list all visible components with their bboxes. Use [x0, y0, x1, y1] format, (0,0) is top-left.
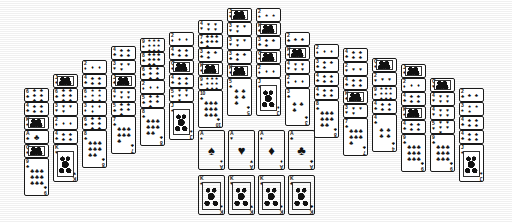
playing-card[interactable]: 2♦♦♦ [314, 44, 339, 58]
playing-card[interactable]: A♣♣ [24, 130, 49, 144]
playing-card[interactable]: K♠ [285, 46, 310, 60]
playing-card[interactable]: 5♣♣♣♣♣♣ [140, 94, 165, 108]
playing-card[interactable]: 5♣♣♣♣♣♣ [111, 102, 136, 116]
playing-card[interactable]: 2♠♠♠ [256, 8, 281, 22]
playing-card[interactable]: 4♥♥♥♥♥ [198, 20, 223, 34]
playing-card[interactable]: 3♣♣♣♣ [198, 48, 223, 62]
playing-card[interactable]: K♥K♥ [228, 175, 255, 215]
playing-card[interactable]: K♣ [343, 90, 368, 104]
playing-card[interactable]: 5♣♣♣♣♣♣5♣ [227, 78, 252, 116]
playing-card[interactable]: 2♣♣♣ [285, 32, 310, 46]
playing-card[interactable]: 3♥♥♥♥ [227, 22, 252, 36]
foundation-slot[interactable]: A♠♠A♠ [198, 130, 225, 170]
playing-card[interactable]: 8♣♣♣♣♣♣♣♣♣8♣ [82, 130, 107, 168]
playing-card[interactable]: A♥♥A♥ [228, 130, 255, 170]
playing-card[interactable]: J♠J♠ [169, 102, 194, 140]
playing-card[interactable]: 5♥♥♥♥♥♥ [430, 120, 455, 134]
playing-card[interactable]: 2♣♣♣ [459, 88, 484, 102]
playing-card[interactable]: 4♣♣♣♣♣ [401, 92, 426, 106]
playing-card[interactable]: 2♦♦♦ [256, 64, 281, 78]
playing-card[interactable]: 4♣♣♣♣♣ [459, 116, 484, 130]
playing-card[interactable]: J♣ [111, 74, 136, 88]
playing-card[interactable]: 3♥♥♥♥ [343, 104, 368, 118]
playing-card[interactable]: 4♣♣♣♣♣ [53, 130, 78, 144]
playing-card[interactable]: K♥K♥ [53, 144, 78, 182]
playing-card[interactable]: J♠J♠ [459, 144, 484, 182]
playing-card[interactable]: J♦ [401, 64, 426, 78]
playing-card[interactable]: 2♥♥♥ [343, 62, 368, 76]
playing-card[interactable]: 9♠♠♠♠♠♠♠♠♠♠ [372, 86, 397, 100]
playing-card[interactable]: K♦ [198, 62, 223, 76]
playing-card[interactable]: 10♣♣♣♣♣♣♣♣♣♣10♣ [198, 90, 223, 128]
playing-card[interactable]: K♣K♣ [288, 175, 315, 215]
playing-card[interactable]: 3♣♣♣♣ [227, 50, 252, 64]
playing-card[interactable]: 2♥♥♥ [372, 72, 397, 86]
playing-card[interactable]: 6♣♣♣♣♣♣♣ [53, 88, 78, 102]
playing-card[interactable]: 9♣♣♣♣♣♣♣♣♣♣9♣ [401, 134, 426, 172]
playing-card[interactable]: 6♣♣♣♣♣♣♣ [24, 88, 49, 102]
playing-card[interactable]: 3♣♣♣♣ [256, 36, 281, 50]
playing-card[interactable]: A♣♣A♣ [288, 130, 315, 170]
playing-card[interactable]: 3♥♥♥♥ [111, 60, 136, 74]
playing-card[interactable]: 3♣♣♣♣3♣ [285, 88, 310, 126]
playing-card[interactable]: 2♦♦♦ [169, 32, 194, 46]
playing-card[interactable]: 4♣♣♣♣♣ [314, 86, 339, 100]
playing-card[interactable]: K♠K♠ [198, 175, 225, 215]
reserve-slot[interactable]: K♠K♠ [198, 175, 225, 215]
playing-card[interactable]: 4♥♥♥♥♥ [285, 60, 310, 74]
playing-card[interactable]: 4♣♣♣♣♣ [459, 130, 484, 144]
playing-card[interactable]: A♠♠A♠ [198, 130, 225, 170]
playing-card[interactable]: 8♣♣♣♣♣♣♣♣♣8♣ [314, 100, 339, 138]
playing-card[interactable]: 2♦♦♦ [53, 116, 78, 130]
foundation-slot[interactable]: A♣♣A♣ [288, 130, 315, 170]
foundation-slot[interactable]: A♥♥A♥ [228, 130, 255, 170]
playing-card[interactable]: 9♣♣♣♣♣♣♣♣♣♣9♣ [24, 158, 49, 196]
reserve-slot[interactable]: K♣K♣ [288, 175, 315, 215]
playing-card[interactable]: 8♣♣♣♣♣♣♣♣♣8♣ [140, 108, 165, 146]
playing-card[interactable]: 7♣♣♣♣♣♣♣♣7♣ [343, 118, 368, 156]
playing-card[interactable]: 7♣♣♣♣♣♣♣♣ [198, 34, 223, 48]
playing-card[interactable]: K♠ [24, 116, 49, 130]
playing-card[interactable]: 6♣♣♣♣♣♣♣ [82, 116, 107, 130]
playing-card[interactable]: A♦♦A♦ [258, 130, 285, 170]
foundation-slot[interactable]: A♦♦A♦ [258, 130, 285, 170]
playing-card[interactable]: 9♠♠♠♠♠♠♠♠♠♠ [140, 38, 165, 52]
playing-card[interactable]: 8♣♣♣♣♣♣♣♣♣ [140, 52, 165, 66]
playing-card[interactable]: 4♥♥♥♥♥ [430, 106, 455, 120]
playing-card[interactable]: 5♥♥♥♥♥♥ [169, 88, 194, 102]
playing-card[interactable]: 4♣♣♣♣♣ [111, 46, 136, 60]
playing-card[interactable]: K♦ [227, 64, 252, 78]
playing-card[interactable]: 4♣♣♣♣♣ [343, 48, 368, 62]
playing-card[interactable]: 4♣♣♣♣♣ [314, 72, 339, 86]
playing-card[interactable]: 4♣♣♣♣♣ [169, 46, 194, 60]
playing-card[interactable]: 2♦♦♦ [82, 60, 107, 74]
playing-card[interactable]: 7♣♣♣♣♣♣♣♣7♣ [111, 116, 136, 154]
playing-card[interactable]: 4♥♥♥♥♥ [430, 92, 455, 106]
playing-card[interactable]: Q♦ [169, 60, 194, 74]
playing-card[interactable]: 9♣♣♣♣♣♣♣♣♣♣9♣ [430, 134, 455, 172]
playing-card[interactable]: 4♥♥♥♥♥ [111, 88, 136, 102]
playing-card[interactable]: 3♣♣♣♣ [314, 58, 339, 72]
playing-card[interactable]: 6♠♠♠♠♠♠♠ [82, 88, 107, 102]
playing-card[interactable]: J♦ [53, 74, 78, 88]
playing-card[interactable]: 6♣♣♣♣♣♣♣ [140, 66, 165, 80]
playing-card[interactable]: K♦K♦ [258, 175, 285, 215]
playing-card[interactable]: Q♠ [256, 50, 281, 64]
reserve-slot[interactable]: K♥K♥ [228, 175, 255, 215]
playing-card[interactable]: 4♣♣♣♣♣ [343, 76, 368, 90]
playing-card[interactable]: Q♥ [430, 78, 455, 92]
playing-card[interactable]: J♦J♦ [256, 78, 281, 116]
playing-card[interactable]: 3♥♥♥♥ [227, 36, 252, 50]
playing-card[interactable]: 4♣♣♣♣♣ [401, 120, 426, 134]
playing-card[interactable]: 9♠♠♠♠♠♠♠♠♠♠ [198, 76, 223, 90]
reserve-slot[interactable]: K♦K♦ [258, 175, 285, 215]
playing-card[interactable]: 3♠♠♠♠ [459, 102, 484, 116]
playing-card[interactable]: 2♦♦♦ [140, 80, 165, 94]
playing-card[interactable]: 4♣♣♣♣♣ [24, 102, 49, 116]
playing-card[interactable]: K♣ [256, 22, 281, 36]
playing-card[interactable]: Q♦ [372, 58, 397, 72]
playing-card[interactable]: 2♦♦♦ [401, 78, 426, 92]
playing-card[interactable]: 4♣♣♣♣♣ [169, 74, 194, 88]
playing-card[interactable]: 3♥♥♥♥ [53, 102, 78, 116]
playing-card[interactable]: 4♣♣♣♣♣ [372, 100, 397, 114]
